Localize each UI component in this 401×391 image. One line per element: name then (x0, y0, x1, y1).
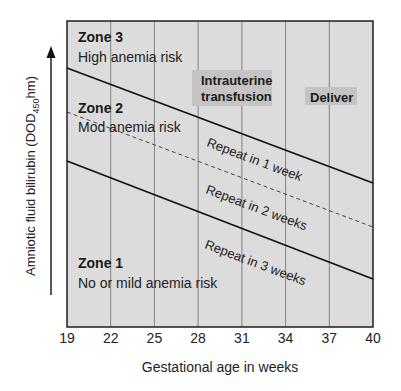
transfusion-label: transfusion (201, 89, 272, 104)
zone-3-description: High anemia risk (78, 49, 183, 65)
zone-1-title: Zone 1 (78, 255, 123, 271)
zone-2-title: Zone 2 (78, 100, 123, 116)
x-axis-ticks: 19 22 25 28 31 34 37 40 (59, 330, 381, 346)
x-tick: 25 (147, 330, 163, 346)
zone-3-title: Zone 3 (78, 29, 123, 45)
x-tick: 19 (59, 330, 75, 346)
x-tick: 28 (190, 330, 206, 346)
deliver-label: Deliver (310, 90, 353, 105)
y-axis-label-subscript: 450 (31, 98, 41, 113)
chart: Zone 3 High anemia risk Zone 2 Mod anemi… (0, 0, 401, 391)
y-axis-label-suffix: hm) (23, 76, 38, 98)
zone-1-description: No or mild anemia risk (78, 275, 218, 291)
x-axis-label: Gestational age in weeks (142, 359, 298, 375)
y-axis-label-main: Amniotic fluid bilirubin (DOD (23, 113, 38, 276)
y-axis-label: Amniotic fluid bilirubin (DOD450hm) (23, 76, 41, 276)
x-tick: 40 (365, 330, 381, 346)
x-tick: 22 (103, 330, 119, 346)
x-tick: 31 (234, 330, 250, 346)
y-axis-arrow-icon (47, 46, 56, 295)
x-tick: 37 (322, 330, 338, 346)
x-tick: 34 (278, 330, 294, 346)
zone-2-description: Mod anemia risk (78, 119, 182, 135)
intrauterine-label: Intrauterine (201, 73, 273, 88)
